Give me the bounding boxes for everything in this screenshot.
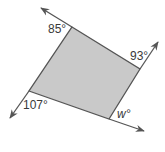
quadrilateral-diagram: 85° 93° 107° w° bbox=[0, 0, 165, 152]
diagram-canvas bbox=[0, 0, 165, 152]
angle-label-top: 85° bbox=[48, 23, 66, 35]
angle-label-right: 93° bbox=[130, 50, 148, 62]
angle-label-left: 107° bbox=[23, 99, 48, 111]
angle-label-bottom: w° bbox=[117, 108, 130, 120]
